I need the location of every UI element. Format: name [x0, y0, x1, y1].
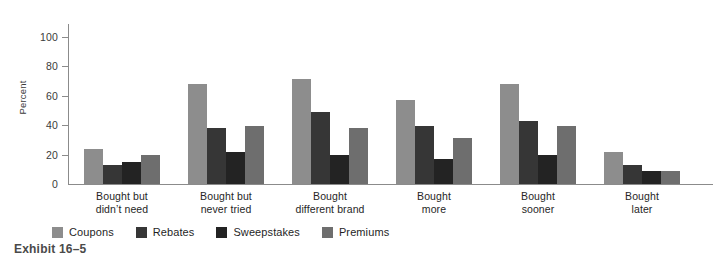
bar-group: [500, 24, 576, 184]
y-tick-label: 20: [24, 150, 58, 160]
y-tick-label: 60: [24, 91, 58, 101]
legend-swatch-icon: [216, 227, 227, 238]
x-axis-label-line1: Bought: [478, 190, 598, 203]
x-axis-label: Boughtdifferent brand: [270, 190, 390, 215]
x-axis-label: Boughtmore: [374, 190, 494, 215]
plot-area: [68, 24, 713, 184]
bar-rebates: [623, 165, 642, 184]
bar-rebates: [415, 126, 434, 184]
bar-sweepstakes: [538, 155, 557, 185]
x-axis-label-line1: Bought: [270, 190, 390, 203]
bar-sweepstakes: [122, 162, 141, 184]
bar-premiums: [245, 126, 264, 184]
bar-coupons: [292, 79, 311, 184]
x-axis-label-line1: Bought but: [166, 190, 286, 203]
legend-item-rebates: Rebates: [136, 226, 195, 238]
x-axis-label: Bought butnever tried: [166, 190, 286, 215]
bar-coupons: [396, 100, 415, 184]
y-tick-label: 40: [24, 120, 58, 130]
bar-group: [396, 24, 472, 184]
bar-group-bars: [292, 24, 368, 184]
bar-coupons: [500, 84, 519, 184]
bar-coupons: [188, 84, 207, 184]
y-tick-40: 40: [0, 120, 58, 130]
bar-premiums: [141, 155, 160, 185]
bar-group: [604, 24, 680, 184]
bar-sweepstakes: [434, 159, 453, 184]
x-axis-label-line1: Bought but: [62, 190, 182, 203]
legend-label: Sweepstakes: [233, 226, 300, 238]
legend-item-sweepstakes: Sweepstakes: [216, 226, 300, 238]
bar-coupons: [84, 149, 103, 184]
bar-rebates: [519, 121, 538, 184]
bar-rebates: [207, 128, 226, 184]
legend-item-premiums: Premiums: [322, 226, 389, 238]
x-axis-label-line2: later: [582, 203, 702, 216]
y-tick-label: 80: [24, 61, 58, 71]
bar-group: [188, 24, 264, 184]
x-axis-label-line1: Bought: [582, 190, 702, 203]
bar-premiums: [661, 171, 680, 184]
x-axis-label: Boughtlater: [582, 190, 702, 215]
x-axis-label-line2: never tried: [166, 203, 286, 216]
y-tick-20: 20: [0, 150, 58, 160]
y-tick-100: 100: [0, 32, 58, 42]
y-tick-label: 0: [24, 179, 58, 189]
legend-item-coupons: Coupons: [52, 226, 114, 238]
bar-sweepstakes: [226, 152, 245, 184]
y-tick-label: 100: [24, 32, 58, 42]
bar-group-bars: [396, 24, 472, 184]
legend-swatch-icon: [322, 227, 333, 238]
bar-sweepstakes: [330, 155, 349, 185]
x-axis-label-line1: Bought: [374, 190, 494, 203]
bar-rebates: [311, 112, 330, 184]
legend-swatch-icon: [136, 227, 147, 238]
x-axis-label-line2: sooner: [478, 203, 598, 216]
bar-rebates: [103, 165, 122, 184]
bar-coupons: [604, 152, 623, 184]
exhibit-figure: Percent 020406080100 Bought butdidn’t ne…: [0, 0, 723, 259]
x-axis-label-line2: different brand: [270, 203, 390, 216]
x-axis-line: [68, 184, 713, 185]
bar-group-bars: [604, 24, 680, 184]
bar-premiums: [349, 128, 368, 184]
x-axis-label-line2: more: [374, 203, 494, 216]
x-axis-label: Bought butdidn’t need: [62, 190, 182, 215]
chart-legend: CouponsRebatesSweepstakesPremiums: [52, 226, 411, 238]
bar-group-bars: [84, 24, 160, 184]
bar-premiums: [557, 126, 576, 184]
x-axis-label-line2: didn’t need: [62, 203, 182, 216]
x-axis-label: Boughtsooner: [478, 190, 598, 215]
bar-sweepstakes: [642, 171, 661, 184]
y-tick-80: 80: [0, 61, 58, 71]
y-tick-60: 60: [0, 91, 58, 101]
legend-label: Rebates: [153, 226, 195, 238]
bar-group: [292, 24, 368, 184]
y-tick-0: 0: [0, 179, 58, 189]
bar-group: [84, 24, 160, 184]
bar-group-bars: [500, 24, 576, 184]
legend-swatch-icon: [52, 227, 63, 238]
bar-premiums: [453, 138, 472, 184]
legend-label: Premiums: [339, 226, 389, 238]
legend-label: Coupons: [69, 226, 114, 238]
exhibit-caption: Exhibit 16–5: [14, 242, 86, 256]
bar-group-bars: [188, 24, 264, 184]
